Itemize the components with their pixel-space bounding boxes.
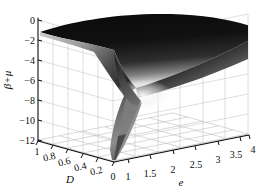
z-axis-title: β+μ [1, 70, 13, 90]
surface-plateau [40, 14, 250, 88]
e-tick-label-0: 1 [126, 171, 131, 182]
e-tick-label-5: 3.5 [230, 149, 243, 160]
e-axis-title: e [179, 176, 184, 188]
plot-canvas: 0 −2 −4 −6 −8 −10 −12 β+μ 1 0.8 0.6 0.4 … [0, 0, 259, 191]
z-tick-label-3: −6 [24, 75, 35, 86]
z-tick-label-0: 0 [30, 15, 35, 26]
surface-plot-figure: 0 −2 −4 −6 −8 −10 −12 β+μ 1 0.8 0.6 0.4 … [0, 0, 259, 191]
d-tick-label-1: 0.8 [42, 150, 57, 164]
e-tick-label-6: 4 [251, 144, 256, 155]
d-tick-label-4: 0.2 [89, 164, 104, 178]
z-axis-ticks: 0 −2 −4 −6 −8 −10 −12 [19, 15, 42, 146]
z-tick-label-6: −12 [19, 135, 35, 146]
e-tick-label-4: 3 [216, 154, 221, 165]
e-tick-label-2: 2 [171, 164, 176, 175]
e-tick-label-3: 2.5 [190, 159, 203, 170]
d-axis-ticks: 1 0.8 0.6 0.4 0.2 0 [35, 141, 116, 182]
d-tick-label-0: 1 [35, 146, 40, 157]
d-tick-label-2: 0.6 [57, 155, 72, 169]
z-tick-label-4: −8 [24, 95, 35, 106]
e-axis-ticks: 1 1.5 2 2.5 3 3.5 4 [126, 135, 256, 182]
e-axis-line [114, 135, 249, 162]
d-axis-title: D [65, 173, 74, 185]
z-tick-label-5: −10 [19, 115, 35, 126]
e-tick-label-1: 1.5 [144, 168, 157, 179]
z-tick-label-2: −4 [24, 55, 35, 66]
d-tick-label-5: 0 [111, 171, 116, 182]
z-tick-label-1: −2 [24, 35, 35, 46]
d-tick-label-3: 0.4 [73, 160, 88, 174]
